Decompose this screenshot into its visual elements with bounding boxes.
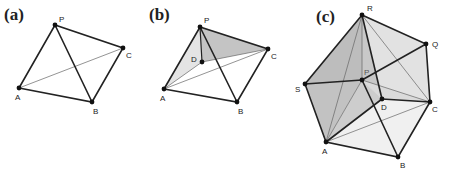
vertex-P [198,25,203,30]
label-B: B [400,161,405,170]
vertex-B [90,100,95,105]
vertex-A [324,140,329,145]
label-B: B [93,107,98,116]
hidden-edge-AC [19,48,123,88]
vertex-R [360,13,365,18]
label-C: C [432,105,438,114]
vertex-C [121,46,126,51]
label-Q: Q [432,40,438,49]
vertex-P [53,23,58,28]
vertex-Q [424,42,429,47]
diagram-canvas: (a) P C A B (b) P C A B D (c) [0,0,456,175]
face-PDC [200,27,268,62]
vertex-A [162,87,167,92]
label-D: D [381,103,387,112]
vertex-C [428,100,433,105]
label-B: B [238,107,243,116]
panel-b-label: (b) [149,5,170,24]
panel-c: (c) R Q S P [295,4,438,170]
vertex-B [235,100,240,105]
edge-PB [55,25,92,102]
label-C: C [126,51,132,60]
panel-a: (a) P C A B [4,5,132,116]
label-P: P [364,68,369,77]
label-P: P [204,16,209,25]
label-P: P [59,15,64,24]
vertex-P [360,78,365,83]
outline-edges [19,25,123,102]
label-R: R [367,4,373,13]
vertex-B [396,155,401,160]
label-D: D [191,55,197,64]
panel-b: (b) P C A B D [149,5,277,116]
vertex-D [200,60,205,65]
panel-a-label: (a) [4,5,24,24]
panel-c-label: (c) [316,7,335,26]
vertex-A [17,86,22,91]
vertex-S [303,82,308,87]
vertex-D [380,97,385,102]
label-C: C [271,52,277,61]
label-A: A [15,93,21,102]
vertex-C [266,47,271,52]
label-A: A [160,94,166,103]
label-A: A [322,147,328,156]
label-S: S [295,85,300,94]
